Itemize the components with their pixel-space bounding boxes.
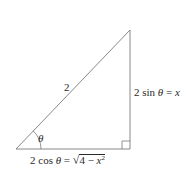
radicand: 4 − x2 [79,154,105,166]
opposite-eq: = [163,86,175,98]
opposite-side-label: 2 sin θ = x [134,87,180,98]
hypotenuse-label: 2 [64,82,70,93]
opposite-rhs: x [175,86,180,98]
right-triangle-diagram [0,0,196,169]
sqrt-expression: √4 − x2 [73,154,105,166]
adjacent-eq: = [61,154,73,166]
radical-sign: √ [73,153,80,167]
adjacent-coef: 2 cos [30,154,56,166]
radicand-const: 4 − [79,154,96,166]
angle-theta-label: θ [38,133,43,144]
radicand-exponent: 2 [102,154,106,162]
right-angle-marker [122,141,130,149]
opposite-coef: 2 sin [134,86,158,98]
adjacent-side-label: 2 cos θ = √4 − x2 [30,154,105,166]
